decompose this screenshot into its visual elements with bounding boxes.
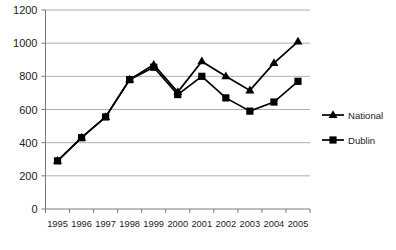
legend-label: National xyxy=(348,110,383,121)
x-axis-tick-label: 1996 xyxy=(71,219,92,229)
data-point-square xyxy=(54,157,61,164)
series-dublin xyxy=(54,64,302,165)
y-axis-tick-label: 200 xyxy=(19,170,37,182)
x-axis-tick-label: 1995 xyxy=(47,219,68,229)
series-line xyxy=(58,67,298,161)
x-axis-tick-label: 2005 xyxy=(288,219,309,229)
data-point-square xyxy=(246,108,253,115)
data-point-square xyxy=(150,64,157,71)
data-point-triangle xyxy=(329,110,338,118)
x-axis-tick-label: 2001 xyxy=(191,219,212,229)
chart-figure: 0200400600800100012001995199619971998199… xyxy=(0,0,396,250)
x-axis-tick-label: 2003 xyxy=(240,219,261,229)
x-axis-tick-label: 2000 xyxy=(167,219,188,229)
y-axis-tick-label: 800 xyxy=(19,70,37,82)
data-point-square xyxy=(329,136,336,143)
data-point-square xyxy=(270,98,277,105)
y-axis-tick-label: 0 xyxy=(31,203,37,215)
y-axis-tick-label: 400 xyxy=(19,137,37,149)
gridlines: 020040060080010001200 xyxy=(13,4,310,215)
data-point-square xyxy=(198,73,205,80)
x-axis-tick-label: 1997 xyxy=(95,219,116,229)
legend-label: Dublin xyxy=(348,135,375,146)
data-point-square xyxy=(294,78,301,85)
data-point-square xyxy=(126,76,133,83)
x-axis-tick-label: 1999 xyxy=(143,219,164,229)
x-axis-tick-label: 1998 xyxy=(119,219,140,229)
data-point-square xyxy=(78,134,85,141)
data-point-triangle xyxy=(197,57,206,65)
line-chart: 0200400600800100012001995199619971998199… xyxy=(0,0,396,250)
y-axis-tick-label: 1200 xyxy=(13,4,37,16)
data-point-triangle xyxy=(221,71,230,79)
legend-item-national[interactable]: National xyxy=(322,110,383,121)
data-point-square xyxy=(222,94,229,101)
y-axis-tick-label: 1000 xyxy=(13,37,37,49)
x-axis-tick-label: 2002 xyxy=(215,219,236,229)
data-point-square xyxy=(102,113,109,120)
x-axis-tick-label: 2004 xyxy=(264,219,285,229)
x-axis: 1995199619971998199920002001200220032004… xyxy=(46,209,311,229)
data-point-square xyxy=(174,91,181,98)
data-point-triangle xyxy=(293,37,302,45)
y-axis-tick-label: 600 xyxy=(19,104,37,116)
legend-item-dublin[interactable]: Dublin xyxy=(322,135,375,146)
series-national xyxy=(53,37,302,164)
legend: NationalDublin xyxy=(322,110,383,146)
